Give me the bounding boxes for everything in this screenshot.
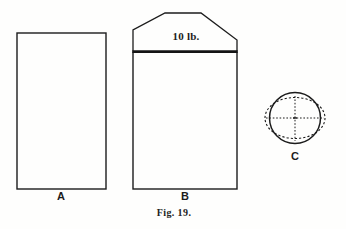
panel-letter-c: C [266, 150, 324, 162]
panel-a-rectangle [17, 33, 106, 189]
panel-letter-b: B [124, 190, 246, 202]
panel-letter-a: A [0, 190, 122, 202]
panel-b-weight-label: 10 lb. [140, 30, 232, 42]
panel-a-group [17, 33, 106, 189]
figure-caption: Fig. 19. [110, 207, 238, 218]
panel-c-group [265, 93, 325, 144]
figure-page: 10 lb. A B C Fig. 19. [0, 0, 346, 229]
panel-b-rectangle [133, 52, 237, 189]
